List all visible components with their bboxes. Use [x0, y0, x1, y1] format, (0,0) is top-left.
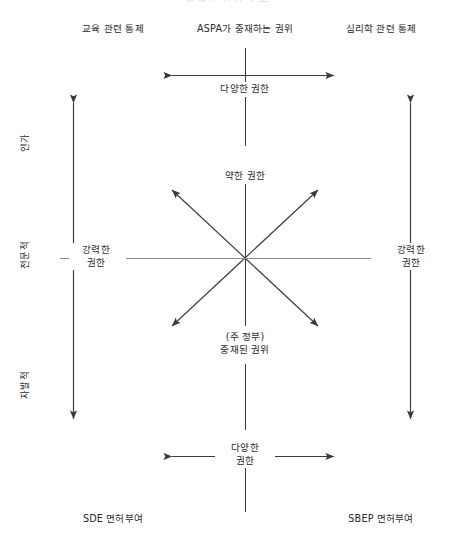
caption-right-vertical-arrow-line2: 권한	[387, 257, 435, 270]
caption-left-vertical-arrow-line1: 강력한	[72, 244, 120, 257]
label-bottom-left: SDE 면허부여	[83, 513, 143, 526]
center-vertical-line-upper	[245, 48, 246, 146]
diagonal-arrow-upper-right	[245, 190, 318, 258]
authority-structure-diagram: 중재된 권위 구조	[0, 0, 469, 552]
diagonal-arrow-lower-right	[245, 258, 318, 326]
caption-center-lower-line1: (주 정부)	[202, 331, 288, 344]
caption-bottom-horizontal-arrow-line1: 다양한	[218, 442, 272, 455]
center-vertical-line-bottom	[245, 468, 246, 512]
center-horizontal-line-main	[126, 258, 371, 259]
caption-center-upper: 약한 권한	[222, 169, 268, 184]
caption-bottom-horizontal-arrow: 다양한 권한	[215, 441, 275, 468]
caption-right-vertical-arrow: 강력한 권한	[384, 243, 438, 270]
caption-right-vertical-arrow-line1: 강력한	[387, 244, 435, 257]
caption-center-lower-line2: 중재된 권위	[202, 344, 288, 357]
center-vertical-line-lower-mid	[245, 258, 246, 326]
center-vertical-line-lower	[245, 364, 246, 430]
label-top-left: 교육 관련 통제	[82, 23, 144, 36]
axis-label-left-bottom: 자발적	[17, 371, 31, 399]
label-bottom-right: SBEP 면허부여	[348, 513, 413, 526]
caption-center-lower: (주 정부) 중재된 권위	[199, 330, 291, 357]
caption-left-vertical-arrow-line2: 권한	[72, 257, 120, 270]
caption-bottom-horizontal-arrow-line2: 권한	[218, 455, 272, 468]
caption-left-vertical-arrow: 강력한 권한	[69, 243, 123, 270]
label-top-center: ASPA가 중재하는 권위	[197, 23, 293, 36]
axis-label-left-middle: 전문적	[17, 241, 31, 269]
label-top-right: 심리학 관련 통제	[346, 23, 417, 36]
diagonal-arrow-lower-left	[172, 258, 245, 326]
center-vertical-line-upper-mid	[245, 184, 246, 258]
caption-top-horizontal-arrow: 다양한 권한	[217, 82, 272, 97]
axis-label-left-top: 인가	[17, 134, 31, 153]
diagonal-arrow-upper-left	[172, 190, 245, 258]
